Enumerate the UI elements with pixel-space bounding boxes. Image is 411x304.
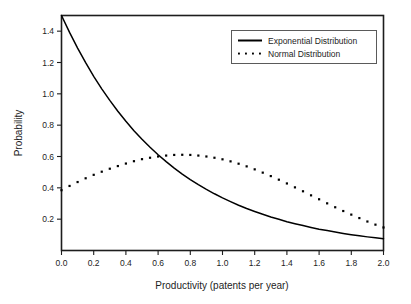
data-point	[60, 189, 62, 191]
chart-legend: Exponential Distribution Normal Distribu…	[232, 31, 377, 64]
data-point	[302, 190, 304, 192]
data-point	[238, 163, 240, 165]
x-tick-label: 0.4	[120, 258, 132, 268]
data-point	[334, 206, 336, 208]
data-point	[181, 154, 183, 156]
y-tick-label: 1.0	[42, 89, 54, 99]
x-tick-label: 1.2	[249, 258, 261, 268]
data-point	[85, 177, 87, 179]
x-axis-title: Productivity (patents per year)	[155, 280, 288, 291]
data-point	[374, 224, 376, 226]
y-tick-label: 0.8	[42, 120, 54, 130]
chart-figure: 0.00.20.40.60.81.01.21.41.61.82.0 0.20.4…	[0, 0, 411, 304]
data-point	[221, 158, 223, 160]
y-tick-label: 0.2	[42, 214, 54, 224]
x-tick-label: 0.8	[184, 258, 196, 268]
x-tick-label: 0.6	[152, 258, 164, 268]
chart-svg: 0.00.20.40.60.81.01.21.41.61.82.0 0.20.4…	[0, 0, 411, 304]
data-point	[310, 194, 312, 196]
data-point	[125, 162, 127, 164]
data-point	[262, 172, 264, 174]
data-point	[77, 181, 79, 183]
data-point	[229, 160, 231, 162]
data-point	[342, 210, 344, 212]
x-tick-label: 1.8	[345, 258, 357, 268]
x-tick-label: 2.0	[378, 258, 390, 268]
data-point	[382, 226, 384, 228]
data-point	[270, 175, 272, 177]
data-point	[189, 154, 191, 156]
data-point	[149, 157, 151, 159]
data-point	[93, 174, 95, 176]
y-axis-title: Probability	[13, 110, 24, 157]
x-tick-label: 1.6	[313, 258, 325, 268]
data-point	[173, 154, 175, 156]
x-tick-label: 0.2	[88, 258, 100, 268]
data-point	[246, 165, 248, 167]
y-tick-label: 0.4	[42, 183, 54, 193]
data-point	[366, 220, 368, 222]
y-tick-label: 1.4	[42, 26, 54, 36]
y-tick-label: 0.6	[42, 152, 54, 162]
data-point	[133, 160, 135, 162]
data-point	[157, 155, 159, 157]
data-point	[205, 155, 207, 157]
data-point	[68, 185, 70, 187]
data-point	[294, 186, 296, 188]
data-point	[254, 168, 256, 170]
data-point	[318, 198, 320, 200]
data-point	[358, 217, 360, 219]
data-point	[197, 154, 199, 156]
legend-label-normal-distribution: Normal Distribution	[268, 49, 341, 59]
data-point	[326, 202, 328, 204]
data-point	[350, 214, 352, 216]
data-point	[278, 179, 280, 181]
x-tick-label: 0.0	[56, 258, 68, 268]
legend-label-exponential-distribution: Exponential Distribution	[268, 36, 358, 46]
y-tick-label: 1.2	[42, 58, 54, 68]
data-point	[286, 182, 288, 184]
data-point	[109, 168, 111, 170]
data-point	[165, 154, 167, 156]
data-point	[101, 171, 103, 173]
data-point	[141, 158, 143, 160]
data-point	[213, 157, 215, 159]
data-point	[117, 165, 119, 167]
x-tick-label: 1.0	[217, 258, 229, 268]
x-tick-label: 1.4	[281, 258, 293, 268]
